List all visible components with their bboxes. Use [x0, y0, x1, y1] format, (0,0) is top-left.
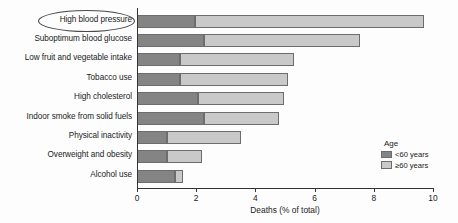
bar-segment — [198, 92, 284, 105]
bar-segment — [137, 92, 198, 105]
bar-segment — [195, 15, 424, 28]
bar-segment — [137, 170, 175, 183]
axis-tick — [374, 188, 375, 192]
axis-tick — [137, 188, 138, 192]
bar-row — [137, 34, 433, 47]
category-label: Indoor smoke from solid fuels — [27, 110, 133, 124]
bar-segment — [137, 53, 180, 66]
legend-label: <60 years — [395, 150, 429, 159]
category-axis-labels: High blood pressureSuboptimum blood gluc… — [0, 0, 137, 188]
category-label: High cholesterol — [74, 90, 132, 104]
bar-segment — [204, 34, 361, 47]
x-axis-title: Deaths (% of total) — [137, 205, 433, 215]
category-label: High blood pressure — [60, 13, 132, 27]
axis-tick-label: 4 — [253, 193, 258, 203]
bar-segment — [137, 34, 204, 47]
bar-segment — [137, 73, 180, 86]
category-label: Low fruit and vegetable intake — [25, 51, 132, 65]
bar-segment — [167, 150, 203, 163]
category-label: Physical inactivity — [69, 129, 132, 143]
legend-entry: <60 years — [381, 150, 455, 159]
axis-tick-label: 8 — [371, 193, 376, 203]
legend-entries: <60 years≥60 years — [381, 150, 455, 170]
axis-tick — [315, 188, 316, 192]
axis-tick-label: 6 — [312, 193, 317, 203]
bar-segment — [175, 170, 182, 183]
axis-tick-label: 2 — [194, 193, 199, 203]
bar-row — [137, 73, 433, 86]
legend: Age <60 years≥60 years — [381, 139, 455, 171]
bar-segment — [180, 53, 294, 66]
bar-segment — [137, 112, 204, 125]
legend-swatch — [381, 151, 392, 159]
legend-title: Age — [384, 139, 455, 148]
axis-tick — [255, 188, 256, 192]
axis-tick — [196, 188, 197, 192]
bar-row — [137, 53, 433, 66]
value-axis-line — [137, 188, 433, 189]
category-label: Overweight and obesity — [48, 148, 132, 162]
axis-tick — [433, 188, 434, 192]
axis-tick-label: 0 — [135, 193, 140, 203]
bar-segment — [137, 15, 195, 28]
bar-segment — [137, 150, 167, 163]
bar-row — [137, 15, 433, 28]
bar-segment — [137, 131, 167, 144]
category-axis-line — [137, 8, 138, 188]
legend-entry: ≥60 years — [381, 161, 455, 170]
bar-chart: High blood pressureSuboptimum blood gluc… — [0, 0, 458, 223]
bar-row — [137, 170, 433, 183]
bar-segment — [204, 112, 279, 125]
category-label: Suboptimum blood glucose — [34, 32, 132, 46]
bar-row — [137, 92, 433, 105]
bar-segment — [167, 131, 241, 144]
legend-swatch — [381, 161, 392, 169]
axis-tick-label: 10 — [428, 193, 437, 203]
bar-row — [137, 112, 433, 125]
category-label: Tobacco use — [87, 71, 132, 85]
legend-label: ≥60 years — [395, 161, 428, 170]
category-label: Alcohol use — [90, 168, 132, 182]
bar-segment — [180, 73, 288, 86]
